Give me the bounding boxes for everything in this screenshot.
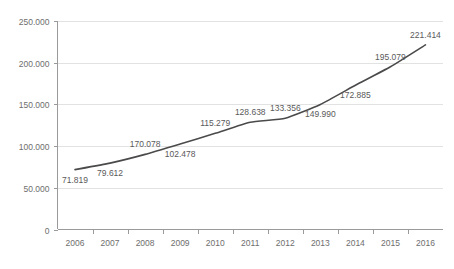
x-axis-tick-label: 2012 xyxy=(276,238,295,248)
x-axis-tick-labels: 2006200720082009201020112012201320142015… xyxy=(66,238,436,248)
data-point-label: 79.612 xyxy=(97,168,123,178)
data-point-label: 172.885 xyxy=(340,90,371,100)
x-axis-tick-label: 2009 xyxy=(171,238,190,248)
x-axis-tick-label: 2013 xyxy=(311,238,330,248)
chart-canvas: 050.000100.000150.000200.000250.000 2006… xyxy=(0,0,454,269)
x-axis-tick-label: 2015 xyxy=(381,238,400,248)
cropped-caption-strip xyxy=(0,261,454,269)
data-point-label: 221.414 xyxy=(410,30,441,40)
x-axis-tick-label: 2011 xyxy=(241,238,260,248)
x-axis-tick-label: 2007 xyxy=(101,238,120,248)
x-axis-tick-label: 2014 xyxy=(346,238,365,248)
y-axis-tick-label: 250.000 xyxy=(19,17,50,27)
y-axis-tick-label: 0 xyxy=(45,226,50,236)
y-axis-tick-label: 200.000 xyxy=(19,59,50,69)
data-point-label: 149.990 xyxy=(305,109,336,119)
data-point-label: 195.079 xyxy=(375,52,406,62)
data-point-label: 115.279 xyxy=(200,118,230,128)
x-axis-tick-label: 2008 xyxy=(136,238,155,248)
y-axis-tick-label: 150.000 xyxy=(19,100,50,110)
data-point-label: 133.356 xyxy=(270,103,301,113)
data-point-label: 102.478 xyxy=(165,149,196,159)
gridlines-group xyxy=(58,22,444,189)
x-axis-tick-label: 2006 xyxy=(66,238,85,248)
data-point-label: 128.638 xyxy=(235,107,266,117)
data-point-label: 71.819 xyxy=(62,175,88,185)
x-axis-tick-label: 2016 xyxy=(416,238,435,248)
data-point-label: 170.078 xyxy=(130,139,161,149)
y-axis-tick-labels: 050.000100.000150.000200.000250.000 xyxy=(19,17,50,236)
x-axis-tick-label: 2010 xyxy=(206,238,225,248)
y-axis-tick-label: 50.000 xyxy=(24,184,50,194)
y-axis-tick-label: 100.000 xyxy=(19,142,50,152)
line-chart: 050.000100.000150.000200.000250.000 2006… xyxy=(0,0,454,269)
